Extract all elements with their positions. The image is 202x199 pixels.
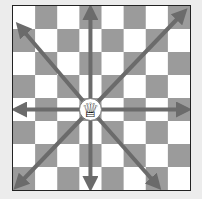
board-graphic: ♕ [13,6,190,190]
square [57,144,80,168]
square [102,144,125,168]
square [146,121,169,145]
square [124,144,147,168]
queen-icon: ♕ [81,98,99,122]
square [35,6,58,30]
square [146,52,169,76]
square [57,29,80,53]
square [13,75,36,99]
square [57,6,80,30]
square [102,167,125,190]
square [13,52,36,76]
square [35,75,58,99]
square [124,121,147,145]
square [102,29,125,53]
square [168,75,190,99]
square [168,52,190,76]
square [102,6,125,30]
square [13,121,36,145]
square [168,29,190,53]
square [168,121,190,145]
square [35,121,58,145]
square [146,6,169,30]
square [13,6,36,30]
square [124,6,147,30]
square [124,29,147,53]
square [13,144,36,168]
square [168,144,190,168]
square [124,75,147,99]
square [146,75,169,99]
square [57,167,80,190]
square [146,144,169,168]
chessboard: ♕ [12,5,191,191]
square [102,52,125,76]
square [35,167,58,190]
square [168,167,190,190]
